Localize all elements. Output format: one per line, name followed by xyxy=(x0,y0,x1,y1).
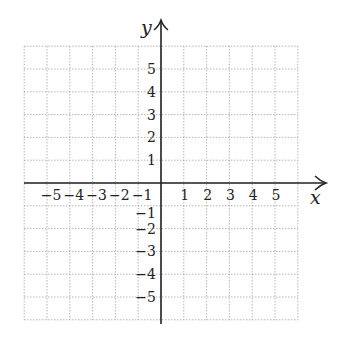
x-tick-label: −1 xyxy=(132,187,153,203)
y-tick-label: 4 xyxy=(147,84,156,100)
x-tick-label: 5 xyxy=(272,187,281,203)
y-tick-label: −4 xyxy=(135,266,156,282)
y-tick-label: −3 xyxy=(135,243,156,259)
y-tick-label: 1 xyxy=(147,152,156,168)
y-tick-label: 3 xyxy=(147,107,156,123)
x-tick-label: 3 xyxy=(226,187,235,203)
axes xyxy=(24,20,326,324)
x-tick-label: −5 xyxy=(41,187,62,203)
y-tick-label: −2 xyxy=(135,221,156,237)
x-tick-label: −3 xyxy=(86,187,107,203)
y-tick-label: 2 xyxy=(147,129,156,145)
x-tick-label: 4 xyxy=(249,187,258,203)
x-tick-label: −4 xyxy=(63,187,84,203)
y-axis-label: y xyxy=(140,16,152,38)
x-axis-label: x xyxy=(310,186,321,208)
coordinate-plane: x y −5−4−3−2−112345 54321−1−2−3−4−5 xyxy=(0,0,347,342)
y-tick-label: 5 xyxy=(147,61,156,77)
y-tick-label: −5 xyxy=(135,289,156,305)
x-tick-label: −2 xyxy=(109,187,130,203)
y-tick-label: −1 xyxy=(135,205,156,221)
x-tick-label: 2 xyxy=(203,187,212,203)
x-tick-label: 1 xyxy=(180,187,189,203)
